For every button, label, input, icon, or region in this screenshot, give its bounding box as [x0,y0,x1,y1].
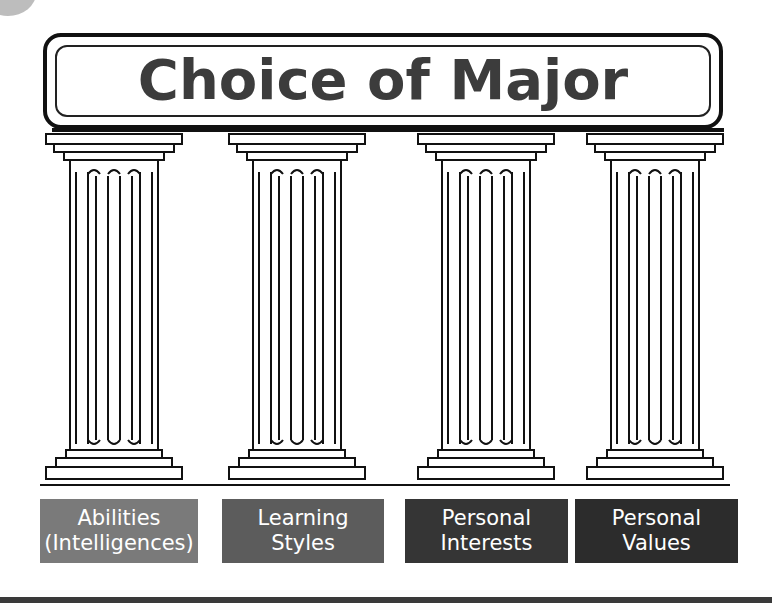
label-line-1: Personal [612,506,701,531]
ground-line [40,484,730,486]
column-icon [585,132,725,486]
label-abilities: Abilities (Intelligences) [40,499,198,563]
column-icon [227,132,367,486]
label-line-1: Personal [442,506,531,531]
pillar-1 [44,132,184,486]
label-learning-styles: Learning Styles [222,499,384,563]
label-line-1: Learning [257,506,348,531]
footer-bar [0,597,772,603]
label-line-2: (Intelligences) [44,531,194,556]
pillar-4 [585,132,725,486]
pillar-2 [227,132,367,486]
label-personal-interests: Personal Interests [405,499,568,563]
pillar-3 [416,132,556,486]
title-board-inner: Choice of Major [55,45,711,117]
column-icon [416,132,556,486]
corner-circle-decoration [0,0,36,16]
label-line-2: Values [622,531,691,556]
title-board: Choice of Major [43,33,723,129]
label-line-2: Styles [271,531,335,556]
column-icon [44,132,184,486]
label-personal-values: Personal Values [575,499,738,563]
label-line-1: Abilities [77,506,160,531]
diagram-title: Choice of Major [138,52,628,108]
label-line-2: Interests [441,531,533,556]
